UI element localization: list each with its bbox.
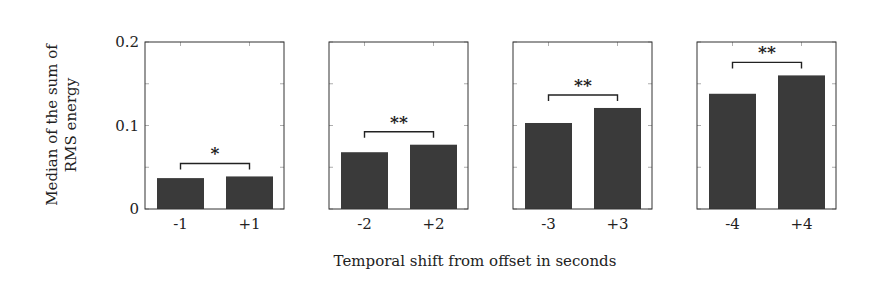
y-axis-title-line-1: Median of the sum of — [43, 43, 61, 206]
chart-panels: -1+1*-2+2**-3+3**-4+4** — [145, 42, 836, 233]
bar-+2 — [410, 145, 457, 209]
y-tick-label: 0 — [129, 200, 139, 218]
chart-canvas: -1+1*-2+2**-3+3**-4+4** 00.10.2 Median o… — [0, 0, 877, 282]
y-tick-label: 0.1 — [115, 117, 139, 135]
x-tick-label: +2 — [422, 215, 444, 233]
chart-panel-2: -2+2** — [329, 42, 468, 233]
bar-+4 — [778, 75, 825, 209]
significance-bracket — [549, 95, 618, 101]
significance-bracket — [365, 132, 434, 138]
significance-bracket — [733, 62, 802, 68]
bar--1 — [157, 178, 204, 209]
bar-+1 — [226, 176, 273, 209]
significance-marker: ** — [574, 75, 592, 95]
x-tick-label: +1 — [238, 215, 260, 233]
bar--3 — [525, 123, 572, 209]
x-tick-label: -3 — [541, 215, 556, 233]
x-tick-label: +3 — [606, 215, 628, 233]
x-axis-title: Temporal shift from offset in seconds — [334, 252, 617, 270]
bar--2 — [341, 152, 388, 209]
chart-panel-4: -4+4** — [697, 42, 836, 233]
x-tick-label: -4 — [725, 215, 740, 233]
significance-bracket — [181, 163, 250, 169]
significance-marker: ** — [758, 42, 776, 62]
bar--4 — [709, 94, 756, 209]
y-axis-tick-labels: 00.10.2 — [115, 33, 139, 218]
x-tick-label: +4 — [790, 215, 812, 233]
bar-chart: -1+1*-2+2**-3+3**-4+4** 00.10.2 Median o… — [0, 0, 877, 282]
x-tick-label: -1 — [173, 215, 188, 233]
significance-marker: ** — [390, 112, 408, 132]
significance-marker: * — [211, 143, 220, 163]
y-axis-title-line-2: RMS energy — [62, 77, 80, 172]
chart-panel-1: -1+1* — [145, 42, 284, 233]
y-tick-label: 0.2 — [115, 33, 139, 51]
x-tick-label: -2 — [357, 215, 372, 233]
chart-panel-3: -3+3** — [513, 42, 652, 233]
bar-+3 — [594, 108, 641, 209]
